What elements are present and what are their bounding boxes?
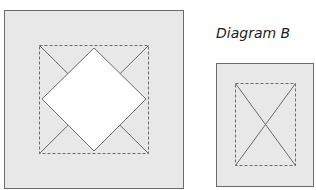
diagram-b-label: Diagram B: [216, 25, 290, 41]
diagram-b: [217, 64, 314, 187]
diagram-a: [5, 11, 184, 189]
